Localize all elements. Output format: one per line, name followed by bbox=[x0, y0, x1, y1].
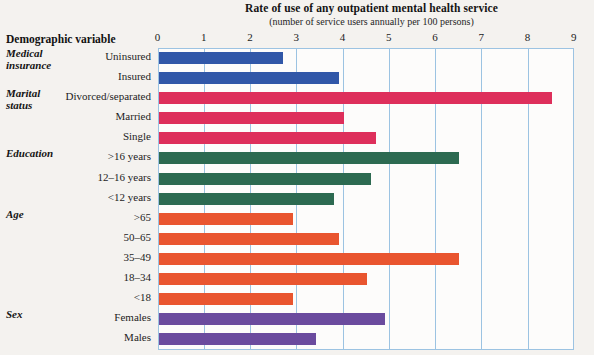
bar-row: Medical insuranceUninsured bbox=[0, 48, 594, 68]
bar bbox=[159, 273, 367, 285]
chart-root: Rate of use of any outpatient mental hea… bbox=[0, 0, 594, 355]
bar bbox=[159, 193, 335, 205]
bar bbox=[159, 233, 339, 245]
category-label: <18 bbox=[0, 291, 151, 303]
bar-row: Age>65 bbox=[0, 209, 594, 229]
category-label: 12–16 years bbox=[0, 171, 151, 183]
category-label: Males bbox=[0, 331, 151, 343]
bar bbox=[159, 52, 284, 64]
bar-row: SexFemales bbox=[0, 309, 594, 329]
x-axis-tick-5: 5 bbox=[386, 31, 392, 43]
x-axis-tick-4: 4 bbox=[340, 31, 346, 43]
bar-row: 12–16 years bbox=[0, 169, 594, 189]
chart-subtitle: (number of service users annually per 10… bbox=[157, 16, 586, 28]
x-axis-tick-9: 9 bbox=[571, 31, 577, 43]
bar bbox=[159, 293, 293, 305]
category-label: 50–65 bbox=[0, 231, 151, 243]
x-axis-tick-6: 6 bbox=[432, 31, 438, 43]
category-label: Single bbox=[0, 130, 151, 142]
category-label: Females bbox=[0, 311, 151, 323]
x-axis-tick-3: 3 bbox=[294, 31, 300, 43]
bar-row: 50–65 bbox=[0, 229, 594, 249]
bar-row: 18–34 bbox=[0, 269, 594, 289]
category-label: Married bbox=[0, 110, 151, 122]
bar bbox=[159, 173, 372, 185]
bar-row: Males bbox=[0, 329, 594, 349]
bar-row: Marital statusDivorced/separated bbox=[0, 88, 594, 108]
x-axis-tick-0: 0 bbox=[155, 31, 161, 43]
bar-row: Education>16 years bbox=[0, 148, 594, 168]
bar bbox=[159, 132, 376, 144]
bar bbox=[159, 72, 339, 84]
bar bbox=[159, 253, 460, 265]
category-label: >65 bbox=[0, 211, 151, 223]
category-label: Uninsured bbox=[0, 50, 151, 62]
bar bbox=[159, 92, 552, 104]
x-axis-tick-2: 2 bbox=[247, 31, 253, 43]
bar bbox=[159, 313, 386, 325]
x-axis-tick-8: 8 bbox=[525, 31, 531, 43]
category-label: Insured bbox=[0, 70, 151, 82]
chart-title-block: Rate of use of any outpatient mental hea… bbox=[157, 2, 586, 28]
bar bbox=[159, 213, 293, 225]
bar-rows: Medical insuranceUninsuredInsuredMarital… bbox=[0, 48, 594, 350]
x-axis-tick-7: 7 bbox=[479, 31, 485, 43]
x-axis-tick-labels: 0123456789 bbox=[0, 31, 594, 46]
bar-row: <12 years bbox=[0, 189, 594, 209]
bar bbox=[159, 112, 344, 124]
category-label: >16 years bbox=[0, 150, 151, 162]
category-label: <12 years bbox=[0, 191, 151, 203]
bar bbox=[159, 333, 316, 345]
category-label: 35–49 bbox=[0, 251, 151, 263]
bar-row: Married bbox=[0, 108, 594, 128]
bar-row: <18 bbox=[0, 289, 594, 309]
bar-row: 35–49 bbox=[0, 249, 594, 269]
bar-row: Single bbox=[0, 128, 594, 148]
bar bbox=[159, 152, 460, 164]
bar-row: Insured bbox=[0, 68, 594, 88]
category-label: 18–34 bbox=[0, 271, 151, 283]
chart-title: Rate of use of any outpatient mental hea… bbox=[157, 2, 586, 15]
category-label: Divorced/separated bbox=[0, 90, 151, 102]
x-axis-tick-1: 1 bbox=[201, 31, 207, 43]
